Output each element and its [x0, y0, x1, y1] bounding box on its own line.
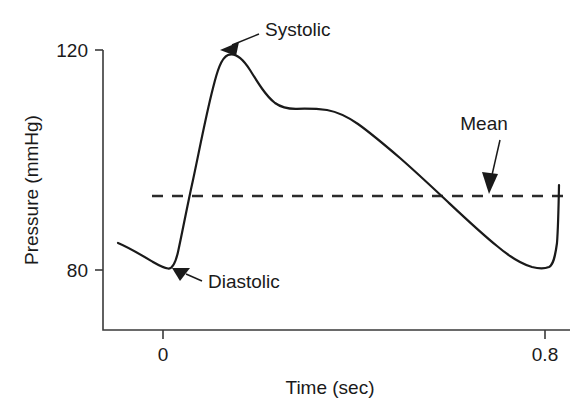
- mean-arrowhead: [482, 172, 498, 194]
- y-axis-title: Pressure (mmHg): [21, 115, 42, 265]
- y-tick-label-120: 120: [56, 40, 88, 61]
- x-axis-title: Time (sec): [285, 377, 374, 398]
- axes-group: [95, 50, 570, 339]
- diastolic-leader-line: [186, 274, 202, 281]
- diastolic-label: Diastolic: [208, 271, 280, 292]
- waveform-curve: [118, 54, 559, 268]
- y-tick-label-80: 80: [67, 260, 88, 281]
- x-tick-label-0: 0: [158, 344, 169, 365]
- systolic-label: Systolic: [265, 19, 330, 40]
- axis-spines: [103, 50, 570, 330]
- chart-canvas: 120 80 0 0.8 Pressure (mmHg) Time (sec) …: [0, 0, 584, 409]
- mean-leader-line: [492, 140, 500, 175]
- blood-pressure-waveform-figure: 120 80 0 0.8 Pressure (mmHg) Time (sec) …: [0, 0, 584, 409]
- annotation-mean: Mean: [460, 113, 508, 194]
- annotation-systolic: Systolic: [220, 19, 330, 56]
- annotation-diastolic: Diastolic: [172, 268, 280, 292]
- mean-label: Mean: [460, 113, 508, 134]
- x-tick-label-0point8: 0.8: [532, 344, 558, 365]
